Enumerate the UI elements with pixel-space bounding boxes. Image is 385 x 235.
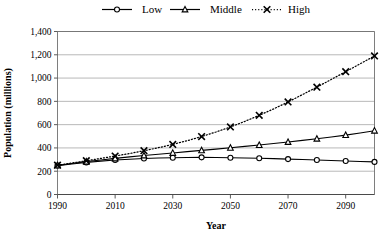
marker-circle <box>257 156 262 161</box>
x-tick-label: 2010 <box>106 201 125 211</box>
legend: LowMiddleHigh <box>102 3 311 15</box>
legend-item-high: High <box>252 3 311 15</box>
legend-label: Low <box>142 3 162 15</box>
marker-circle <box>314 158 319 163</box>
y-axis: 02004006008001,0001,2001,400 <box>30 27 57 200</box>
marker-circle <box>170 155 175 160</box>
y-tick-label: 800 <box>37 97 52 107</box>
marker-triangle <box>170 150 176 156</box>
series-line-low <box>58 157 375 165</box>
x-tick-label: 2090 <box>336 201 355 211</box>
x-tick-label: 2030 <box>163 201 182 211</box>
x-tick-label: 1990 <box>48 201 67 211</box>
series-high <box>54 53 378 169</box>
y-tick-label: 600 <box>37 120 52 130</box>
x-tick-label: 2050 <box>221 201 240 211</box>
legend-item-middle: Middle <box>170 3 242 15</box>
x-axis-title: Year <box>206 220 227 231</box>
y-tick-label: 1,400 <box>30 27 52 37</box>
y-tick-label: 0 <box>47 190 52 200</box>
marker-circle <box>115 7 120 12</box>
series-low <box>55 155 377 168</box>
marker-triangle <box>256 142 262 148</box>
x-axis: 199020102030205020702090 <box>48 195 355 212</box>
marker-circle <box>372 159 377 164</box>
marker-triangle <box>285 139 291 145</box>
marker-triangle <box>314 136 320 142</box>
plot-border <box>58 32 375 195</box>
y-tick-label: 400 <box>37 143 52 153</box>
marker-circle <box>286 157 291 162</box>
marker-triangle <box>372 128 378 134</box>
gridlines <box>58 32 375 195</box>
y-tick-label: 1,000 <box>30 73 52 83</box>
y-axis-title: Population (millions) <box>2 68 14 158</box>
marker-triangle <box>343 132 349 138</box>
marker-triangle <box>182 6 188 12</box>
y-tick-label: 200 <box>37 167 52 177</box>
marker-circle <box>199 155 204 160</box>
x-tick-label: 2070 <box>279 201 298 211</box>
y-tick-label: 1,200 <box>30 50 52 60</box>
legend-item-low: Low <box>102 3 162 15</box>
chart-canvas: 02004006008001,0001,2001,400199020102030… <box>0 0 385 235</box>
legend-label: High <box>288 3 311 15</box>
population-projection-chart: 02004006008001,0001,2001,400199020102030… <box>0 0 385 235</box>
marker-circle <box>343 158 348 163</box>
legend-label: Middle <box>210 3 242 15</box>
marker-circle <box>228 155 233 160</box>
marker-triangle <box>228 145 234 151</box>
